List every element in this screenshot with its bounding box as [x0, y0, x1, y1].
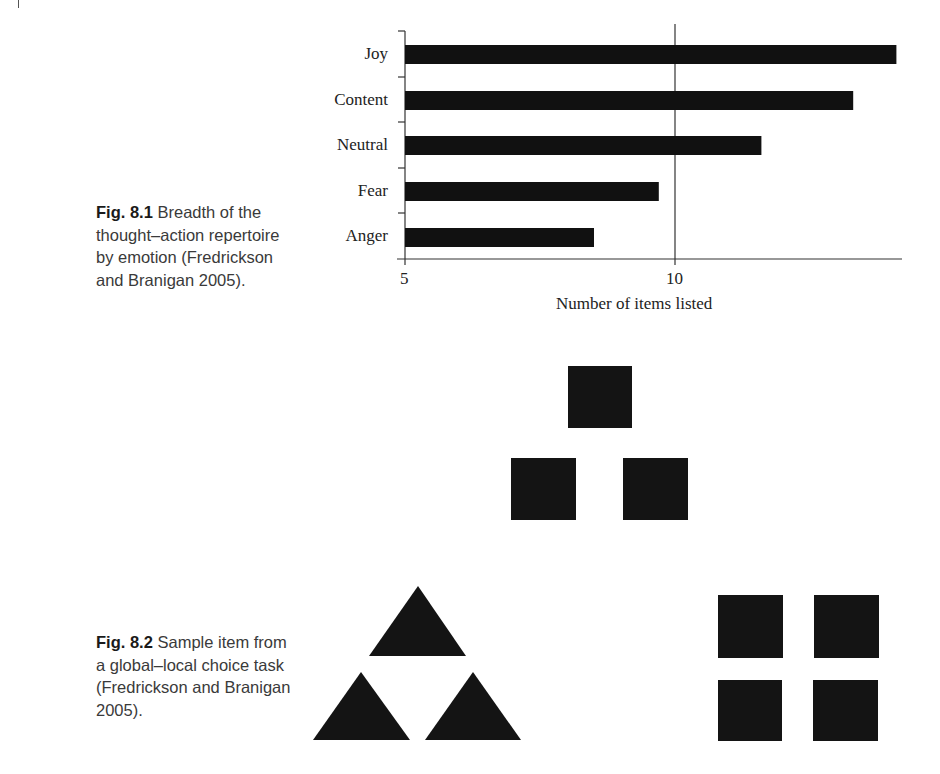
figure-8-2-caption: Fig. 8.2 Sample item from a global–local…	[96, 631, 296, 721]
bar-anger	[405, 228, 594, 247]
local-option-squares	[718, 595, 879, 741]
x-tick-10: 10	[666, 269, 683, 289]
bar-joy	[405, 45, 896, 64]
x-tick-5: 5	[400, 269, 409, 289]
caption-number: Fig. 8.1	[96, 203, 153, 221]
bar-fear	[405, 182, 659, 201]
global-option-triangles	[313, 586, 521, 740]
caption-number: Fig. 8.2	[96, 633, 153, 651]
x-axis-title: Number of items listed	[556, 294, 712, 314]
bar-neutral	[405, 136, 761, 155]
category-label-content: Content	[268, 90, 388, 110]
bars-group	[405, 45, 896, 247]
target-shape	[511, 366, 688, 520]
bar-content	[405, 91, 853, 110]
category-label-fear: Fear	[268, 181, 388, 201]
category-label-neutral: Neutral	[268, 135, 388, 155]
category-label-joy: Joy	[268, 44, 388, 64]
figure-8-1-caption: Fig. 8.1 Breadth of the thought–action r…	[96, 201, 296, 291]
